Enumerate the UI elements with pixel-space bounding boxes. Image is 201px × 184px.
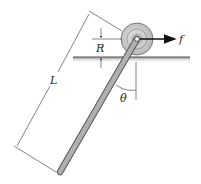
length-label: L [49, 74, 57, 87]
radius-label: R [95, 42, 104, 55]
angle-label: θ [120, 92, 127, 105]
pivot-pin [135, 37, 140, 42]
diagram-canvas: f R L θ [0, 0, 201, 184]
force-label: f [178, 33, 185, 46]
ground-surface [73, 57, 190, 63]
